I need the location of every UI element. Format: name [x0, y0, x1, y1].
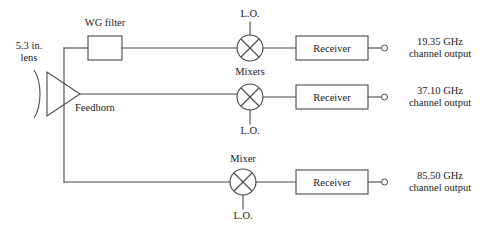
receiver-label-channel-2: Receiver: [313, 92, 350, 103]
output-terminal-icon: [382, 179, 388, 185]
lo-label-channel-2: L.O.: [240, 125, 259, 137]
channel-2-frequency: 37.10 GHz: [417, 85, 463, 96]
channel-1-output-text: channel output: [409, 48, 471, 59]
lens-label-line1: 5.3 in.: [16, 40, 43, 51]
lens-label-line2: lens: [21, 52, 38, 63]
mixers-group-label: Mixers: [235, 66, 265, 78]
feedhorn-label: Feedhorn: [75, 102, 115, 114]
channel-1-frequency: 19.35 GHz: [417, 36, 463, 47]
lo-label-channel-3: L.O.: [233, 210, 252, 222]
output-terminal-icon: [382, 45, 388, 51]
channel-output-label-3: 85.50 GHz channel output: [396, 170, 484, 193]
channel-2-output-text: channel output: [409, 97, 471, 108]
channel-3-output-text: channel output: [409, 182, 471, 193]
receiver-label-channel-3: Receiver: [313, 177, 350, 188]
channel-output-label-1: 19.35 GHz channel output: [396, 36, 484, 59]
wg-filter-label: WG filter: [85, 17, 126, 29]
receiver-label-channel-1: Receiver: [313, 43, 350, 54]
block-diagram: 5.3 in. lens Feedhorn WG filter Receiver…: [0, 0, 486, 234]
mixer-label-channel-3: Mixer: [230, 153, 256, 165]
channel-output-label-2: 37.10 GHz channel output: [396, 85, 484, 108]
channel-3-frequency: 85.50 GHz: [417, 170, 463, 181]
output-terminal-icon: [382, 94, 388, 100]
lens-arc-icon: [34, 70, 40, 118]
lo-label-channel-1: L.O.: [240, 8, 259, 20]
wg-filter-box: [88, 36, 122, 60]
lens-label: 5.3 in. lens: [6, 40, 52, 63]
